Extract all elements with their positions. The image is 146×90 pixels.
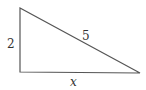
right-triangle (20, 8, 140, 73)
horizontal-leg-label: x (70, 75, 77, 89)
hypotenuse-label: 5 (82, 29, 90, 43)
triangle-diagram: 2 5 x (0, 0, 146, 90)
vertical-leg-label: 2 (7, 37, 15, 51)
